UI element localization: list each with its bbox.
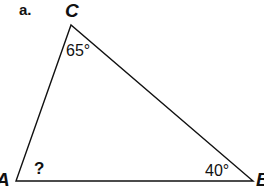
vertex-b-label: B [256,170,264,186]
angle-c-value: 65° [66,43,90,59]
vertex-c-label: C [65,1,79,20]
vertex-a-label: A [0,170,10,186]
part-label: a. [19,2,32,17]
triangle-abc [16,25,253,181]
angle-b-value: 40° [205,163,229,179]
angle-a-unknown: ? [34,160,44,177]
